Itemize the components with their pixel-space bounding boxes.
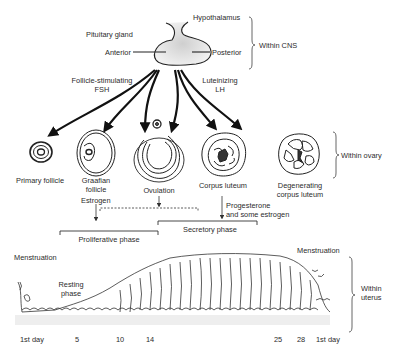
- progesterone-line2: and some estrogen: [226, 210, 289, 219]
- day-label: 14: [146, 335, 154, 344]
- primary-follicle-label: Primary follicle: [5, 176, 75, 185]
- estrogen-label: Estrogen: [81, 196, 111, 205]
- pituitary-gland-drawing: [133, 22, 211, 65]
- posterior-label: Posterior: [212, 48, 242, 57]
- progesterone-label: Progesterone and some estrogen: [226, 201, 289, 219]
- uterus-bracket: [349, 257, 355, 332]
- lh-line1: Luteinizing: [195, 76, 245, 85]
- within-uterus-line1: Within: [361, 284, 382, 293]
- day-label: 25: [274, 335, 282, 344]
- graafian-follicle-label: Graafian follicle: [71, 176, 121, 194]
- resting-phase-label: Resting phase: [51, 280, 91, 298]
- day-label: 10: [116, 335, 124, 344]
- secretion-arrows: [96, 196, 222, 220]
- anterior-label: Anterior: [105, 48, 131, 57]
- graafian-line1: Graafian: [71, 176, 121, 185]
- fsh-line2: FSH: [62, 85, 142, 94]
- graafian-line2: follicle: [71, 185, 121, 194]
- menstruation-start-label: Menstruation: [14, 253, 57, 262]
- primary-follicle-drawing: [30, 142, 52, 162]
- degenerating-corpus-luteum-label: Degenerating corpus luteum: [270, 181, 330, 199]
- degenerating-corpus-luteum-drawing: [279, 134, 320, 174]
- lh-line2: LH: [195, 85, 245, 94]
- resting-line1: Resting: [51, 280, 91, 289]
- corpus-luteum-drawing: [202, 133, 246, 176]
- within-uterus-label: Within uterus: [361, 284, 382, 302]
- progesterone-line1: Progesterone: [226, 201, 289, 210]
- within-cns-label: Within CNS: [259, 41, 297, 50]
- secretory-phase-label: Secretory phase: [170, 225, 250, 234]
- fsh-line1: Follicle-stimulating: [62, 76, 142, 85]
- degenerating-line2: corpus luteum: [270, 190, 330, 199]
- menstruation-end-label: Menstruation: [297, 246, 340, 255]
- hypothalamus-label: Hypothalamus: [193, 13, 240, 22]
- degenerating-line1: Degenerating: [270, 181, 330, 190]
- within-uterus-line2: uterus: [361, 293, 382, 302]
- proliferative-phase-label: Proliferative phase: [60, 235, 158, 244]
- graafian-follicle-drawing: [77, 130, 115, 176]
- day-label: 28: [297, 335, 305, 344]
- cns-bracket: [249, 17, 255, 69]
- ovary-bracket: [333, 132, 339, 178]
- ovulation-drawing: [134, 120, 184, 182]
- pituitary-gland-label: Pituitary gland: [86, 30, 133, 39]
- day-label: 1st day: [20, 335, 44, 344]
- corpus-luteum-label: Corpus luteum: [195, 181, 251, 190]
- lh-label: Luteinizing LH: [195, 76, 245, 94]
- ovulation-label: Ovulation: [134, 186, 184, 195]
- fsh-label: Follicle-stimulating FSH: [62, 76, 142, 94]
- day-label: 1st day: [316, 335, 340, 344]
- within-ovary-label: Within ovary: [341, 151, 382, 160]
- resting-line2: phase: [51, 289, 91, 298]
- day-label: 5: [75, 335, 79, 344]
